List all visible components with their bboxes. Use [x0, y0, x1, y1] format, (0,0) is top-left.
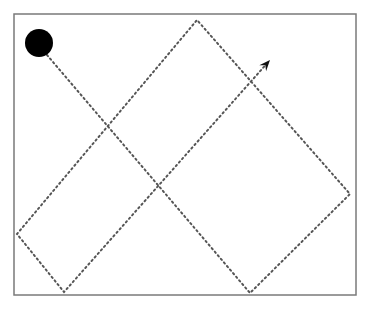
diagram-canvas — [0, 0, 366, 309]
start-ball — [25, 29, 53, 57]
bounce-path — [17, 20, 350, 293]
